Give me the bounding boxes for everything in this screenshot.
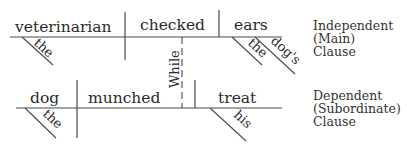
sub-subject-modifier: the: [40, 106, 66, 132]
sentence-diagram: veterinarian checked ears the the dog's …: [0, 0, 407, 149]
main-object: ears: [234, 16, 268, 34]
main-verb: checked: [140, 16, 205, 34]
sub-object-modifier: his: [231, 107, 255, 131]
conjunction-while: While: [167, 50, 182, 88]
sub-subject: dog: [30, 89, 59, 107]
dependent-clause: dog munched treat the his: [16, 80, 282, 141]
dependent-clause-label: Dependent (Subordinate) Clause: [313, 89, 401, 128]
sub-object: treat: [218, 89, 257, 107]
independent-clause-label: Independent (Main) Clause: [313, 19, 393, 58]
subordinating-connector: While: [167, 37, 182, 108]
main-subject-modifier: the: [31, 35, 57, 61]
label-line: Clause: [313, 45, 393, 58]
label-line: Clause: [313, 115, 401, 128]
main-object-modifier-dogs: dog's: [268, 33, 304, 67]
sub-verb: munched: [88, 89, 160, 107]
independent-clause: veterinarian checked ears the the dog's: [10, 10, 304, 74]
main-subject: veterinarian: [14, 18, 112, 36]
